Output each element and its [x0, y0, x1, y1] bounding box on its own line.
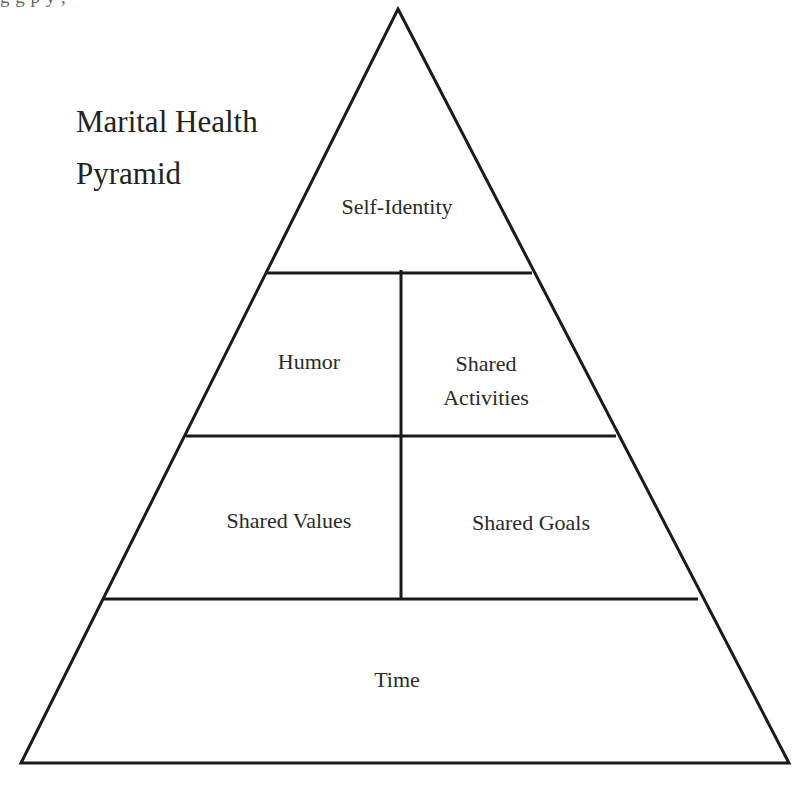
cell-shared-activities: Shared Activities — [443, 347, 529, 415]
cell-shared-goals: Shared Goals — [472, 506, 590, 540]
pyramid-outline — [21, 9, 789, 763]
cell-shared-values: Shared Values — [227, 504, 352, 538]
cell-label-line-2: Activities — [443, 381, 529, 415]
cell-self-identity: Self-Identity — [341, 190, 452, 224]
cell-label: Shared Values — [227, 504, 352, 538]
cell-label: Time — [374, 663, 420, 697]
cell-humor: Humor — [278, 345, 340, 379]
cell-time: Time — [374, 663, 420, 697]
cell-label: Shared Goals — [472, 506, 590, 540]
cell-label: Humor — [278, 345, 340, 379]
cell-label: Self-Identity — [341, 190, 452, 224]
cell-label-line-1: Shared — [443, 347, 529, 381]
